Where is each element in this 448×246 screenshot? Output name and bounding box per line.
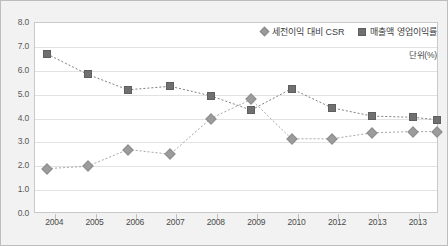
data-point-operating-margin <box>43 50 51 58</box>
data-point-operating-margin <box>409 113 417 121</box>
legend-item-operating-margin: 매출액 영업이익률 <box>358 25 437 38</box>
series-lines <box>35 23 439 214</box>
x-axis-tick-label: 2013 <box>398 217 438 227</box>
y-axis-tick-label: 1.0 <box>3 184 29 194</box>
y-axis-tick-label: 6.0 <box>3 65 29 75</box>
diamond-icon <box>260 27 270 37</box>
data-point-operating-margin <box>368 112 376 120</box>
y-axis-tick-label: 0.0 <box>3 208 29 218</box>
y-axis-tick-label: 8.0 <box>3 17 29 27</box>
y-axis-tick-label: 3.0 <box>3 136 29 146</box>
data-point-operating-margin <box>433 116 441 124</box>
unit-note: 단위(%) <box>409 48 437 60</box>
y-axis-tick-label: 4.0 <box>3 113 29 123</box>
y-axis-tick-label: 2.0 <box>3 160 29 170</box>
legend-label-csr: 세전이익 대비 CSR <box>272 25 344 38</box>
legend-item-csr: 세전이익 대비 CSR <box>261 25 344 38</box>
data-point-operating-margin <box>84 70 92 78</box>
x-axis-tick-label: 2012 <box>317 217 357 227</box>
x-axis-tick-label: 2007 <box>155 217 195 227</box>
y-axis-tick-label: 5.0 <box>3 89 29 99</box>
data-point-operating-margin <box>124 86 132 94</box>
x-axis-tick-label: 2008 <box>196 217 236 227</box>
data-point-operating-margin <box>328 104 336 112</box>
series-line-operating-margin <box>47 54 437 120</box>
series-line-csr <box>47 99 437 168</box>
legend-label-operating-margin: 매출액 영업이익률 <box>370 25 437 38</box>
chart-legend: 세전이익 대비 CSR 매출액 영업이익률 <box>261 25 437 38</box>
x-axis-tick-label: 2005 <box>75 217 115 227</box>
x-axis-tick-label: 2013 <box>357 217 397 227</box>
data-point-operating-margin <box>207 92 215 100</box>
chart-figure: 0.01.02.03.04.05.06.07.08.0 200420052006… <box>0 0 448 246</box>
data-point-operating-margin <box>166 82 174 90</box>
x-axis-tick-label: 2009 <box>236 217 276 227</box>
square-icon <box>358 28 366 36</box>
x-axis-tick-label: 2006 <box>115 217 155 227</box>
y-axis-tick-label: 7.0 <box>3 41 29 51</box>
x-axis-tick-label: 2010 <box>277 217 317 227</box>
plot-area <box>34 22 438 213</box>
data-point-operating-margin <box>288 85 296 93</box>
x-axis-tick-label: 2004 <box>34 217 74 227</box>
data-point-operating-margin <box>247 106 255 114</box>
